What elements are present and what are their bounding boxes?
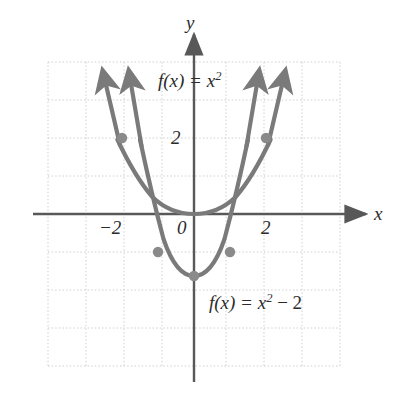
upper-curve-label-lead: f(x) = x: [158, 70, 215, 91]
x-axis-label: x: [374, 203, 382, 225]
lower-curve-label-lead: f(x) = x: [209, 292, 266, 313]
x-tick-label-neg2: −2: [99, 217, 121, 239]
graph-canvas: [0, 0, 398, 400]
point-marker-neg2-2: [117, 133, 127, 143]
upper-curve-label-exponent: 2: [215, 69, 221, 83]
origin-label: 0: [177, 217, 187, 239]
y-axis-label: y: [186, 12, 194, 34]
point-marker-0-neg2: [189, 271, 199, 281]
upper-curve-label: f(x) = x2: [158, 70, 221, 92]
lower-curve-label: f(x) = x2 − 2: [209, 292, 302, 314]
graph-figure: y x −2 0 2 2 f(x) = x2 f(x) = x2 − 2: [0, 0, 398, 400]
y-tick-label-2: 2: [171, 127, 181, 149]
x-tick-label-2: 2: [261, 217, 271, 239]
point-marker-1-neg1: [225, 247, 235, 257]
point-marker-2-2: [261, 133, 271, 143]
point-marker-neg1-neg1: [153, 247, 163, 257]
lower-curve-label-tail: − 2: [272, 292, 302, 313]
